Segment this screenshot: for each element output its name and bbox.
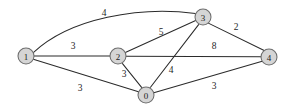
node-3-circle[interactable] bbox=[195, 9, 211, 25]
edges-group bbox=[33, 11, 264, 92]
node-4[interactable]: 4 bbox=[261, 49, 277, 65]
edge-weight-3-4: 2 bbox=[234, 22, 239, 32]
edge-weight-1-0: 3 bbox=[78, 83, 83, 93]
edge-2-4 bbox=[126, 56, 261, 57]
edge-weight-1-3: 4 bbox=[102, 8, 107, 18]
edge-weight-2-4: 8 bbox=[212, 41, 217, 51]
node-2[interactable]: 2 bbox=[110, 48, 126, 64]
graph-diagram: 4 3 3 5 8 3 4 3 2 1 2 0 bbox=[0, 0, 290, 112]
edge-weight-2-0: 3 bbox=[122, 69, 127, 79]
node-4-circle[interactable] bbox=[261, 49, 277, 65]
node-0[interactable]: 0 bbox=[138, 87, 154, 103]
node-1-circle[interactable] bbox=[18, 48, 34, 64]
node-2-circle[interactable] bbox=[110, 48, 126, 64]
edge-weight-0-3: 4 bbox=[169, 65, 174, 75]
node-0-circle[interactable] bbox=[138, 87, 154, 103]
node-1[interactable]: 1 bbox=[18, 48, 34, 64]
edge-weight-0-4: 3 bbox=[212, 81, 217, 91]
node-3[interactable]: 3 bbox=[195, 9, 211, 25]
edge-weights-group: 4 3 3 5 8 3 4 3 2 bbox=[71, 8, 239, 93]
edge-weight-1-2: 3 bbox=[71, 41, 76, 51]
edge-weight-2-3: 5 bbox=[159, 27, 164, 37]
graph-canvas: 4 3 3 5 8 3 4 3 2 1 2 0 bbox=[0, 0, 290, 112]
